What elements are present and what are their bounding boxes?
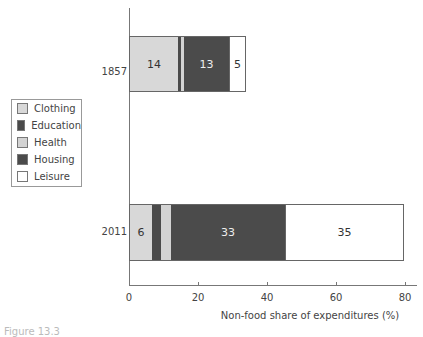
legend-label: Education — [31, 120, 81, 131]
legend-label: Housing — [34, 154, 75, 165]
category-label-1857: 1857 — [87, 66, 127, 77]
x-axis-line — [129, 285, 417, 286]
segment-leisure: 5 — [229, 37, 245, 91]
x-tick — [405, 282, 406, 286]
legend-item-housing: Housing — [12, 151, 81, 168]
x-tick-label: 0 — [114, 292, 144, 303]
x-tick-label: 20 — [183, 292, 213, 303]
legend: Clothing Education Health Housing Leisur… — [11, 99, 82, 187]
segment-housing: 13 — [184, 37, 229, 91]
value-label: 33 — [221, 226, 235, 239]
legend-label: Health — [34, 137, 67, 148]
bar-1857: 14 13 5 — [129, 36, 246, 92]
swatch-icon — [17, 103, 28, 114]
legend-item-leisure: Leisure — [12, 168, 81, 185]
legend-item-education: Education — [12, 117, 81, 134]
segment-health — [161, 205, 171, 260]
bar-2011: 6 33 35 — [129, 204, 404, 261]
value-label: 35 — [338, 226, 352, 239]
x-tick-label: 80 — [390, 292, 420, 303]
category-label-2011: 2011 — [87, 226, 127, 237]
value-label: 6 — [138, 226, 145, 239]
x-tick-label: 60 — [321, 292, 351, 303]
figure-caption: Figure 13.3 — [4, 326, 60, 337]
segment-education — [152, 205, 161, 260]
swatch-icon — [17, 120, 25, 131]
legend-label: Leisure — [34, 171, 70, 182]
x-tick — [267, 282, 268, 286]
swatch-icon — [17, 154, 28, 165]
segment-housing: 33 — [171, 205, 285, 260]
x-tick — [198, 282, 199, 286]
legend-item-health: Health — [12, 134, 81, 151]
segment-leisure: 35 — [285, 205, 403, 260]
x-axis-label: Non-food share of expenditures (%) — [200, 310, 420, 321]
value-label: 13 — [200, 58, 214, 71]
x-tick-label: 40 — [252, 292, 282, 303]
legend-item-clothing: Clothing — [12, 100, 81, 117]
x-tick — [129, 282, 130, 286]
legend-label: Clothing — [34, 103, 76, 114]
swatch-icon — [17, 171, 28, 182]
x-tick — [336, 282, 337, 286]
value-label: 5 — [234, 58, 241, 71]
value-label: 14 — [147, 58, 161, 71]
segment-clothing: 14 — [130, 37, 178, 91]
swatch-icon — [17, 137, 28, 148]
segment-clothing: 6 — [130, 205, 152, 260]
